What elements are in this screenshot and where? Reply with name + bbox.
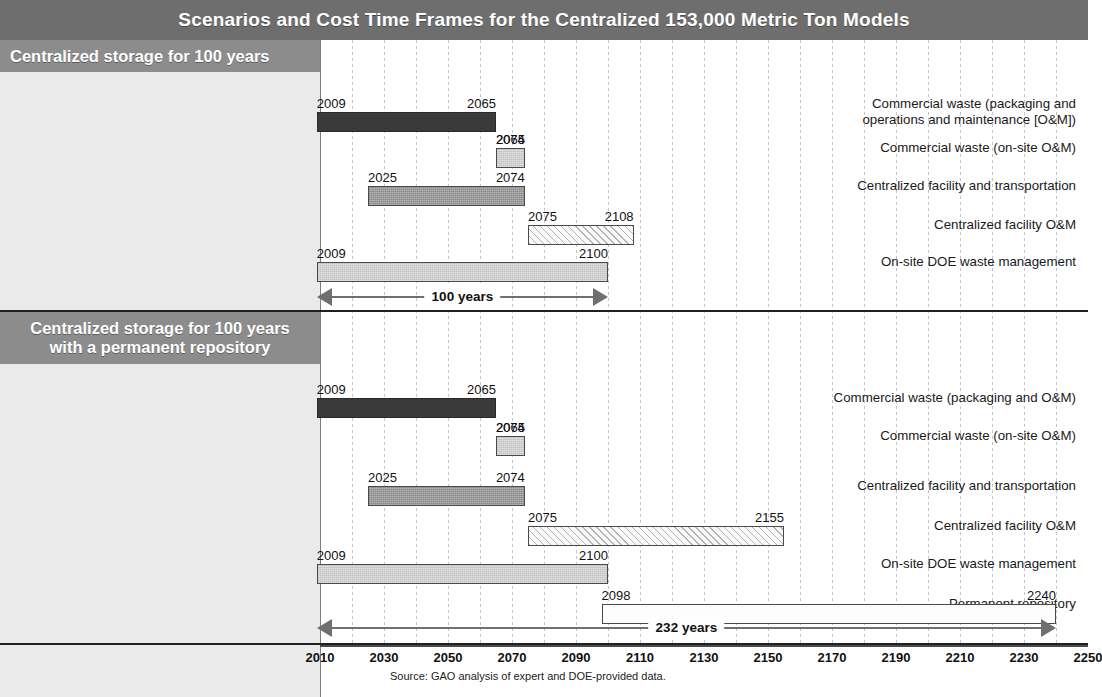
gridline [864, 40, 865, 645]
timeline-bar-s2-r3 [368, 486, 525, 506]
bar-end-year-s1-r1: 2065 [467, 96, 496, 111]
row-label-s1-r2: Commercial waste (on-site O&M) [880, 140, 1076, 156]
bar-start-year-s2-r4: 2075 [528, 510, 557, 525]
scenario-panel-2: Centralized storage for 100 yearswith a … [0, 312, 321, 697]
row-label-line: operations and maintenance [O&M]) [862, 112, 1076, 128]
row-label-line: Commercial waste (on-site O&M) [880, 428, 1076, 444]
timeline-bar-s2-r5 [317, 564, 608, 584]
gridline [512, 40, 513, 645]
scenario-header-line: Centralized storage for 100 years [30, 319, 290, 338]
row-label-s1-r3: Centralized facility and transportation [857, 178, 1076, 194]
row-label-s2-r4: Centralized facility O&M [934, 518, 1076, 534]
gridline [576, 40, 577, 645]
bar-start-year-s1-r1: 2009 [317, 96, 346, 111]
row-label-s2-r2: Commercial waste (on-site O&M) [880, 428, 1076, 444]
gridline [544, 40, 545, 645]
bar-end-year-s1-r4: 2108 [605, 209, 634, 224]
timeline-bar-s1-r4 [528, 225, 634, 245]
bar-start-year-s2-r5: 2009 [317, 548, 346, 563]
row-label-line: On-site DOE waste management [881, 556, 1076, 572]
timeline-bar-s1-r5 [317, 262, 608, 282]
gridline [736, 40, 737, 645]
row-label-line: Commercial waste (packaging and O&M) [834, 390, 1076, 406]
x-axis-tick-2210: 2210 [946, 650, 975, 665]
row-label-line: On-site DOE waste management [881, 254, 1076, 270]
x-axis-tick-2110: 2110 [626, 650, 654, 665]
row-label-line: Commercial waste (packaging and [862, 96, 1076, 112]
bar-end-year-s1-r5: 2100 [579, 246, 608, 261]
gridline [800, 40, 801, 645]
row-label-s1-r5: On-site DOE waste management [881, 254, 1076, 270]
row-label-line: Centralized facility O&M [934, 518, 1076, 534]
row-label-line: Commercial waste (on-site O&M) [880, 140, 1076, 156]
x-axis-tick-2250: 2250 [1074, 650, 1102, 665]
row-label-s2-r1: Commercial waste (packaging and O&M) [834, 390, 1076, 406]
span-arrow-head-left [317, 288, 332, 306]
section-separator-1 [0, 310, 1088, 312]
gridline [1024, 40, 1025, 645]
x-axis-tick-2010: 2010 [306, 650, 335, 665]
x-axis-tick-2130: 2130 [690, 650, 719, 665]
x-axis-tick-2050: 2050 [434, 650, 463, 665]
bar-start-year-s1-r5: 2009 [317, 246, 346, 261]
gridline [832, 40, 833, 645]
gridline [768, 40, 769, 645]
bar-start-year-s1-r4: 2075 [528, 209, 557, 224]
timeline-bar-s1-r2 [496, 148, 525, 168]
scenario-header-line: with a permanent repository [50, 338, 271, 357]
bar-end-year-s2-r1: 2065 [467, 382, 496, 397]
gridline [896, 40, 897, 645]
timeline-bar-s1-r3 [368, 186, 525, 206]
timeline-bar-s2-r2 [496, 436, 525, 456]
gridline [960, 40, 961, 645]
span-arrow-s1: 100 years [317, 286, 608, 308]
chart-title-bar: Scenarios and Cost Time Frames for the C… [0, 0, 1088, 40]
row-label-s2-r5: On-site DOE waste management [881, 556, 1076, 572]
span-arrow-head-left [317, 619, 332, 637]
page-title: Scenarios and Cost Time Frames for the C… [178, 9, 909, 31]
x-axis-line [320, 645, 1088, 647]
span-arrow-label-s1: 100 years [425, 286, 501, 308]
gridline [608, 40, 609, 645]
scenario-header-line: Centralized storage for 100 years [10, 47, 270, 66]
bar-end-year-s2-r3: 2074 [496, 470, 525, 485]
span-arrow-head-right [593, 288, 608, 306]
bar-start-year-s2-r1: 2009 [317, 382, 346, 397]
source-note: Source: GAO analysis of expert and DOE-p… [390, 670, 666, 682]
bar-start-year-s2-r6: 2098 [602, 588, 631, 603]
x-axis-tick-2150: 2150 [754, 650, 783, 665]
span-arrow-head-right [1041, 619, 1056, 637]
scenario-panel-1: Centralized storage for 100 years [0, 40, 321, 344]
gridline [672, 40, 673, 645]
bar-start-year-s2-r3: 2025 [368, 470, 397, 485]
scenario-header-2: Centralized storage for 100 yearswith a … [0, 312, 320, 364]
bar-end-year-s1-r3: 2074 [496, 170, 525, 185]
gridline [928, 40, 929, 645]
x-axis-tick-2030: 2030 [370, 650, 399, 665]
x-axis-tick-2090: 2090 [562, 650, 591, 665]
bar-end-year-s2-r2: 2074 [496, 420, 525, 435]
row-label-s2-r3: Centralized facility and transportation [857, 478, 1076, 494]
row-label-s1-r4: Centralized facility O&M [934, 217, 1076, 233]
x-axis-tick-2170: 2170 [818, 650, 847, 665]
gridline [640, 40, 641, 645]
row-label-s1-r1: Commercial waste (packaging andoperation… [862, 96, 1076, 128]
bar-end-year-s2-r5: 2100 [579, 548, 608, 563]
x-axis-tick-2230: 2230 [1010, 650, 1039, 665]
timeline-bar-s2-r1 [317, 398, 496, 418]
bar-end-year-s2-r6: 2240 [1027, 588, 1056, 603]
x-axis-tick-2070: 2070 [498, 650, 527, 665]
scenario-header-1: Centralized storage for 100 years [0, 40, 320, 72]
row-label-line: Centralized facility and transportation [857, 478, 1076, 494]
bar-start-year-s1-r3: 2025 [368, 170, 397, 185]
bar-end-year-s2-r4: 2155 [755, 510, 784, 525]
row-label-line: Centralized facility O&M [934, 217, 1076, 233]
span-arrow-label-s2: 232 years [649, 617, 725, 639]
bar-end-year-s1-r2: 2074 [496, 132, 525, 147]
span-arrow-s2: 232 years [317, 617, 1056, 639]
row-label-line: Centralized facility and transportation [857, 178, 1076, 194]
gridline [992, 40, 993, 645]
gridline [704, 40, 705, 645]
gridline [1056, 40, 1057, 645]
